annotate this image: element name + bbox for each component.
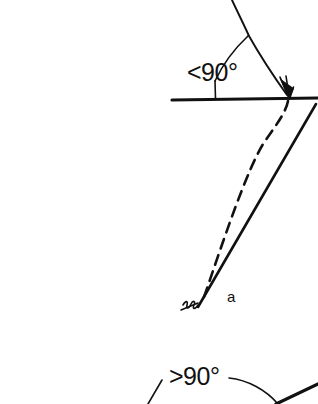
solid-slanted-line: [198, 104, 316, 307]
top-angle-label: <90°: [187, 58, 237, 86]
hatch-mark: [183, 301, 198, 308]
angle-diagram-svg: a <90° >90°: [0, 0, 318, 404]
incoming-slanted-line: [232, 0, 287, 95]
bottom-angle-arc: [229, 378, 278, 404]
figure-root: a <90° >90°: [0, 0, 318, 404]
bottom-right-stroke: [276, 384, 318, 404]
point-a-label: a: [227, 288, 236, 305]
dashed-curve-line: [203, 101, 288, 300]
bottom-left-stroke: [148, 380, 162, 404]
bottom-angle-label: >90°: [169, 362, 219, 390]
horizontal-reference-line: [172, 98, 318, 100]
